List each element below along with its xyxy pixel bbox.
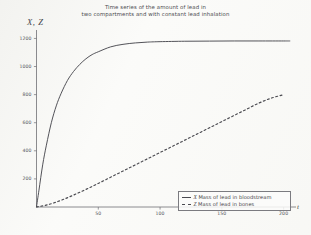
y-tick-label: 400 <box>16 148 32 153</box>
legend-label-bones: Mass of lead in bones <box>198 201 254 207</box>
y-tick-label: 1200 <box>16 36 32 41</box>
legend-item-bones[interactable]: Z Mass of lead in bones <box>182 201 287 208</box>
y-tick-label: 600 <box>16 120 32 125</box>
y-tick-label: 200 <box>16 176 32 181</box>
legend-label-bloodstream: Mass of lead in bloodstream <box>198 194 271 200</box>
legend-dashed-line-icon <box>182 201 191 207</box>
legend-solid-line-icon <box>182 194 191 200</box>
y-tick-label: 1000 <box>16 64 32 69</box>
axis-lines <box>37 30 297 207</box>
legend-item-bloodstream[interactable]: X Mass of lead in bloodstream <box>182 194 287 201</box>
y-tick-label: 800 <box>16 92 32 97</box>
legend-symbol-z: Z <box>194 201 197 207</box>
chart-legend: X Mass of lead in bloodstream Z Mass of … <box>178 191 291 212</box>
series-line-bloodstream <box>37 41 290 207</box>
chart-figure: Time series of the amount of lead in two… <box>0 0 311 235</box>
x-tick-label: 100 <box>151 211 169 216</box>
x-tick-label: 50 <box>89 211 107 216</box>
legend-symbol-x: X <box>194 194 197 200</box>
